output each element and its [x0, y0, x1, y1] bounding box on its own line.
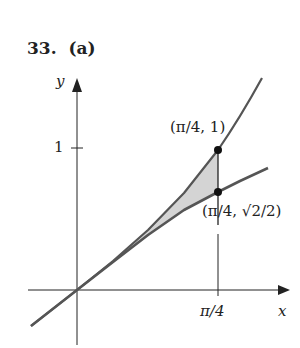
point-top — [214, 146, 222, 154]
point-bottom-label: (π/4, √2/2) — [202, 202, 281, 220]
y-tick-label: 1 — [54, 138, 64, 156]
point-top-label: (π/4, 1) — [170, 118, 225, 136]
y-axis-label: y — [56, 72, 64, 90]
y-axis-arrow-icon — [72, 78, 82, 92]
x-axis-label: x — [278, 302, 286, 320]
x-axis-arrow-icon — [278, 285, 290, 295]
graph — [0, 0, 300, 348]
x-tick-label: π/4 — [200, 302, 224, 320]
sin-curve — [31, 168, 268, 326]
point-bottom — [214, 188, 222, 196]
shaded-region — [77, 150, 218, 290]
